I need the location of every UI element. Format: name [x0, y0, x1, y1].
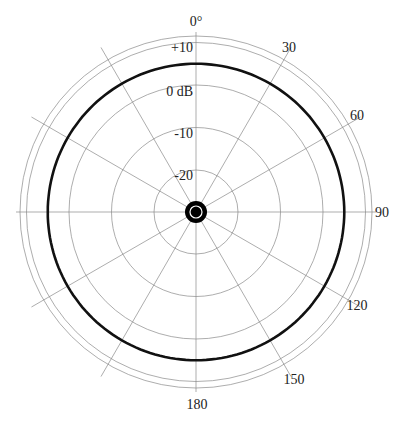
angle-label-150: 150 [284, 372, 305, 387]
angle-label-0: 0° [190, 14, 203, 29]
angle-label-180: 180 [187, 397, 208, 412]
ring-label: 0 dB [166, 84, 193, 99]
ring-label: +10 [171, 40, 193, 55]
ring-label: -10 [174, 126, 193, 141]
ring-label: -20 [174, 168, 193, 183]
center-marker-icon [185, 201, 207, 223]
angle-label-120: 120 [347, 298, 368, 313]
angle-label-90: 90 [375, 205, 389, 220]
polar-chart: 0°306090120150180-20-100 dB+10 [0, 0, 403, 421]
angle-label-60: 60 [350, 108, 364, 123]
angle-label-30: 30 [282, 40, 296, 55]
